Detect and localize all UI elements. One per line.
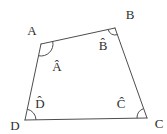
- angle-label-b: B̂: [99, 38, 108, 53]
- edge-cd: [25, 118, 147, 120]
- angle-arc-c: [137, 109, 144, 119]
- vertex-label-c: C: [155, 116, 164, 131]
- vertex-label-b: B: [126, 7, 135, 22]
- angle-label-d: D̂: [35, 96, 44, 111]
- diagram-canvas: AÂBB̂CĈDD̂: [0, 0, 167, 134]
- vertex-label-a: A: [27, 23, 37, 38]
- angle-label-a: Â: [52, 59, 62, 74]
- angle-label-c: Ĉ: [117, 96, 126, 111]
- quadrilateral-diagram: AÂBB̂CĈDD̂: [0, 0, 167, 134]
- vertex-label-d: D: [10, 118, 19, 133]
